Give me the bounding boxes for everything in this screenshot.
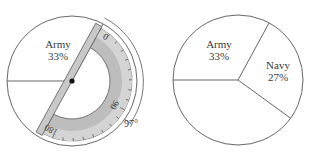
right-navy-percent: 27% [258, 71, 298, 83]
right-army-percent: 33% [199, 50, 239, 62]
pie-center-dot [69, 78, 74, 83]
right-army-name: Army [199, 38, 239, 50]
right-navy-name: Navy [258, 59, 298, 71]
right-army-label: Army 33% [199, 38, 239, 62]
left-army-label: Army 33% [38, 38, 78, 62]
left-army-name: Army [38, 38, 78, 50]
left-army-percent: 33% [38, 50, 78, 62]
measured-angle-label: 97° [124, 118, 148, 130]
right-navy-label: Navy 27% [258, 59, 298, 83]
